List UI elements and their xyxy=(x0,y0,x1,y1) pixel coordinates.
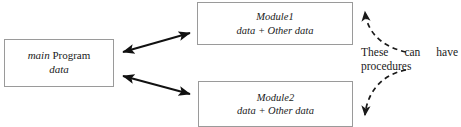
arrow-main-to-module2 xyxy=(123,76,190,94)
annotation-word-these: These xyxy=(361,46,388,60)
box-main-program-subtitle: data xyxy=(49,63,69,77)
dashed-curve-module2-bottom xyxy=(365,70,406,115)
annotation-word-can: can xyxy=(404,46,420,60)
annotation-line-1: These can have xyxy=(361,46,458,60)
arrow-main-to-module1 xyxy=(123,33,190,52)
clipped-heading-text: can have its own data xyxy=(1,0,109,1)
box-module2-title: Module2 xyxy=(257,91,294,104)
box-main-program-title-rest: Program xyxy=(50,49,91,61)
box-module1-subtitle: data + Other data xyxy=(237,24,314,37)
box-module1-title: Module1 xyxy=(256,10,293,23)
box-main-program[interactable]: main Program data xyxy=(4,39,114,87)
box-main-program-title: main Program xyxy=(28,49,91,63)
diagram-canvas: can have its own data xyxy=(0,0,461,127)
box-module2-subtitle: data + Other data xyxy=(237,104,314,117)
annotation-these-can-have-procedures: These can have procedures xyxy=(361,46,458,73)
box-module1[interactable]: Module1 data + Other data xyxy=(197,2,353,45)
annotation-line-2: procedures xyxy=(361,60,458,74)
annotation-word-have: have xyxy=(436,46,458,60)
box-module2[interactable]: Module2 data + Other data xyxy=(198,81,353,127)
box-main-program-title-emphasis: main xyxy=(28,49,50,61)
